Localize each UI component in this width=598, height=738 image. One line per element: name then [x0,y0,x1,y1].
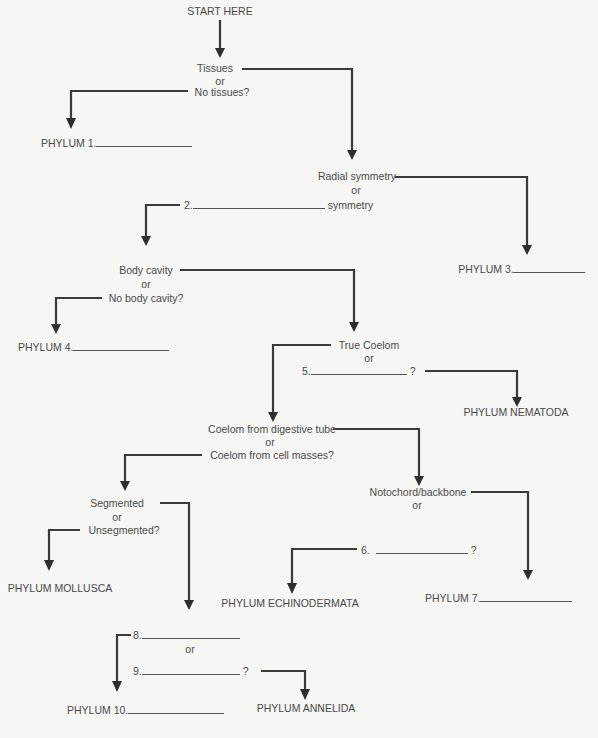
answer-blank-10[interactable] [128,704,224,714]
option-8: 8. [133,629,240,642]
phylum-3-label: PHYLUM 3. [458,263,585,276]
phylum-mollusca-label: PHYLUM MOLLUSCA [8,582,112,595]
pseudocoelom-option: 5. ? [302,365,416,378]
arrow-bilateral [141,205,180,246]
start-label: START HERE [187,5,252,18]
or-label: or [185,643,194,656]
arrow-segmented [160,503,194,610]
arrow-true-coelom [268,345,331,422]
notochord-option: Notochord/backbone [370,486,467,499]
or-label: or [265,436,274,449]
coelom-digestive-tube-option: Coelom from digestive tube [208,423,336,436]
arrow-tissues-no [66,91,188,129]
true-coelom-option: True Coelom [339,339,399,352]
arrow-start [215,20,225,58]
phylum-10-label: PHYLUM 10. [67,704,224,717]
body-cavity-option: Body cavity [119,264,173,277]
arrow-body-cavity [180,270,359,332]
arrow-notochord [471,492,533,580]
phylum-echinodermata-label: PHYLUM ECHINODERMATA [221,597,358,610]
arrow-9 [261,671,310,700]
answer-blank-3[interactable] [514,263,586,273]
answer-blank-7[interactable] [480,592,572,602]
answer-blank-2[interactable] [193,199,325,209]
arrow-radial [395,177,532,255]
option-9: 9. ? [133,665,249,678]
phylum-1-label: PHYLUM 1. [41,137,192,150]
answer-blank-6[interactable] [376,544,468,554]
tissues-option: Tissues [197,62,233,75]
or-label: or [412,499,421,512]
arrow-no-notochord [287,549,357,594]
answer-blank-5[interactable] [311,365,407,375]
answer-blank-9[interactable] [142,665,240,675]
no-tissues-option: No tissues? [195,86,250,99]
answer-blank-8[interactable] [142,629,240,639]
or-label: or [141,278,150,291]
radial-symmetry-option: Radial symmetry [318,170,396,183]
phylum-7-label: PHYLUM 7. [425,592,572,605]
or-label: or [351,184,360,197]
arrow-pseudocoelom [425,371,522,407]
arrow-cell-masses [120,455,202,491]
coelom-cell-masses-option: Coelom from cell masses? [210,449,334,462]
phylum-nematoda-label: PHYLUM NEMATODA [463,406,568,419]
or-label: or [364,352,373,365]
arrow-unsegmented [44,530,80,571]
bilateral-symmetry-option: 2. symmetry [184,199,373,212]
arrow-tissues-yes [242,69,357,160]
no-notochord-option: 6. ? [361,544,477,557]
unsegmented-option: Unsegmented? [88,524,159,537]
no-body-cavity-option: No body cavity? [109,292,184,305]
arrow-8 [112,635,131,692]
phylum-4-label: PHYLUM 4. [18,341,169,354]
phylum-annelida-label: PHYLUM ANNELIDA [257,702,356,715]
answer-blank-1[interactable] [96,137,192,147]
or-label: or [112,511,121,524]
flow-arrows [0,0,598,738]
segmented-option: Segmented [90,497,144,510]
arrow-digestive-tube [333,429,424,486]
arrow-no-body-cavity [51,298,102,334]
answer-blank-4[interactable] [73,341,169,351]
